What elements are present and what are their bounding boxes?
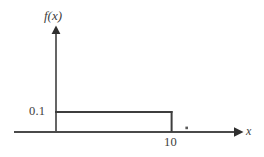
y-axis-label: f(x) [44,9,62,22]
plot-canvas [0,0,264,157]
x-tick-label-10: 10 [164,136,177,149]
uniform-pdf-figure: f(x) x 0.1 10 [0,0,264,157]
stray-dot-mark [185,127,188,130]
x-axis-arrowhead [234,127,244,137]
y-tick-label-0point1: 0.1 [29,105,45,118]
x-axis-label: x [246,125,251,137]
y-axis-arrowhead [52,26,61,35]
